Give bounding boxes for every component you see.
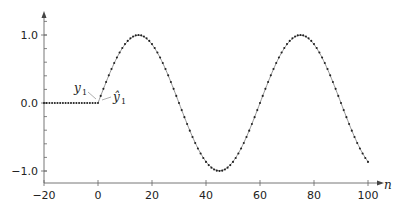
series-y-point bbox=[146, 37, 148, 39]
series-y-point bbox=[340, 102, 342, 104]
series-y-point bbox=[235, 157, 237, 159]
annotation-yhat1: ŷ 1 bbox=[102, 90, 126, 106]
series-y-point bbox=[164, 68, 166, 70]
x-axis-label: n bbox=[384, 178, 392, 192]
series-y-point bbox=[286, 43, 288, 45]
series-y-point bbox=[70, 102, 72, 104]
series-y-point bbox=[75, 102, 77, 104]
series-y-point bbox=[173, 88, 175, 90]
series-y-point bbox=[224, 168, 226, 170]
series-y-point bbox=[86, 102, 88, 104]
series-y-point bbox=[245, 136, 247, 138]
series-y-point bbox=[299, 34, 301, 36]
series-y-point bbox=[65, 102, 67, 104]
series-y-point bbox=[127, 40, 129, 42]
series-y-point bbox=[232, 161, 234, 163]
series-y-point bbox=[175, 95, 177, 97]
series-y-point bbox=[73, 102, 75, 104]
series-y-point bbox=[332, 81, 334, 83]
series-y-point bbox=[108, 74, 110, 76]
series-y-point bbox=[335, 88, 337, 90]
series-y-point bbox=[251, 123, 253, 125]
series-y-point bbox=[43, 102, 45, 104]
series-y-point bbox=[356, 142, 358, 144]
annotation-yhat-label: ŷ bbox=[112, 90, 120, 104]
x-tick-label: 80 bbox=[307, 189, 321, 202]
series-y-point bbox=[281, 51, 283, 53]
series-y-point bbox=[135, 34, 137, 36]
series-y-point bbox=[89, 102, 91, 104]
axes: −1.00.01.0−20020406080100 bbox=[11, 11, 384, 202]
series-y-point bbox=[313, 43, 315, 45]
series-y-point bbox=[197, 147, 199, 149]
series-y-point bbox=[159, 56, 161, 58]
series-y-point bbox=[351, 130, 353, 132]
series-y-point bbox=[343, 109, 345, 111]
series-y-point bbox=[181, 109, 183, 111]
series-y-point bbox=[348, 123, 350, 125]
series-y-point bbox=[240, 147, 242, 149]
series-y-point bbox=[151, 43, 153, 45]
series-y-point bbox=[291, 37, 293, 39]
series-y-point bbox=[110, 68, 112, 70]
series-y-point bbox=[102, 88, 104, 90]
y-tick-label: −1.0 bbox=[11, 165, 38, 178]
series-y-point bbox=[329, 74, 331, 76]
series-y-point bbox=[213, 168, 215, 170]
series-y-point bbox=[345, 116, 347, 118]
series-y-point bbox=[248, 130, 250, 132]
series-y-point bbox=[113, 62, 115, 64]
series-y-point bbox=[208, 164, 210, 166]
series-y-point bbox=[191, 136, 193, 138]
series-y-point bbox=[51, 102, 53, 104]
series-y-point bbox=[326, 68, 328, 70]
series-y-point bbox=[105, 81, 107, 83]
series-y-point bbox=[56, 102, 58, 104]
series-y-point bbox=[256, 109, 258, 111]
series-y-point bbox=[262, 95, 264, 97]
series-y-point bbox=[267, 81, 269, 83]
series-y-point bbox=[321, 56, 323, 58]
series-y-point bbox=[78, 102, 80, 104]
series-y-point bbox=[237, 152, 239, 154]
series-yhat-line bbox=[98, 35, 368, 170]
series-y-point bbox=[297, 34, 299, 36]
series-y-point bbox=[302, 34, 304, 36]
series-y-point bbox=[210, 167, 212, 169]
series-y-point bbox=[259, 102, 261, 104]
series-y-point bbox=[308, 37, 310, 39]
series-y-point bbox=[92, 102, 94, 104]
annotation-yhat-subscript: 1 bbox=[121, 97, 126, 106]
x-axis-arrow-icon bbox=[377, 181, 384, 186]
series-y-point bbox=[116, 56, 118, 58]
series-y-point bbox=[100, 95, 102, 97]
series-y-point bbox=[353, 136, 355, 138]
y-tick-label: 1.0 bbox=[21, 29, 39, 42]
series-y-point bbox=[54, 102, 56, 104]
series-y-point bbox=[62, 102, 64, 104]
series-y-point bbox=[289, 40, 291, 42]
series-y-point bbox=[364, 157, 366, 159]
x-tick-label: 40 bbox=[199, 189, 213, 202]
series-y-point bbox=[143, 35, 145, 37]
y-axis-arrow-icon bbox=[42, 11, 47, 18]
series-y-point bbox=[359, 147, 361, 149]
series-y-point bbox=[162, 62, 164, 64]
series-y-point bbox=[59, 102, 61, 104]
x-tick-label: 100 bbox=[358, 189, 379, 202]
series-y-point bbox=[337, 95, 339, 97]
series-y-point bbox=[83, 102, 85, 104]
series-y-point bbox=[294, 35, 296, 37]
series-y-point bbox=[170, 81, 172, 83]
x-tick-label: −20 bbox=[32, 189, 55, 202]
y-tick-label: 0.0 bbox=[21, 97, 39, 110]
series-y-point bbox=[310, 40, 312, 42]
series-y-point bbox=[81, 102, 83, 104]
series-y-point bbox=[124, 43, 126, 45]
series-y-point bbox=[200, 152, 202, 154]
series-y-point bbox=[119, 51, 121, 53]
series-y-point bbox=[229, 164, 231, 166]
series-y-point bbox=[254, 116, 256, 118]
series-y-point bbox=[183, 116, 185, 118]
series-y-point bbox=[278, 56, 280, 58]
